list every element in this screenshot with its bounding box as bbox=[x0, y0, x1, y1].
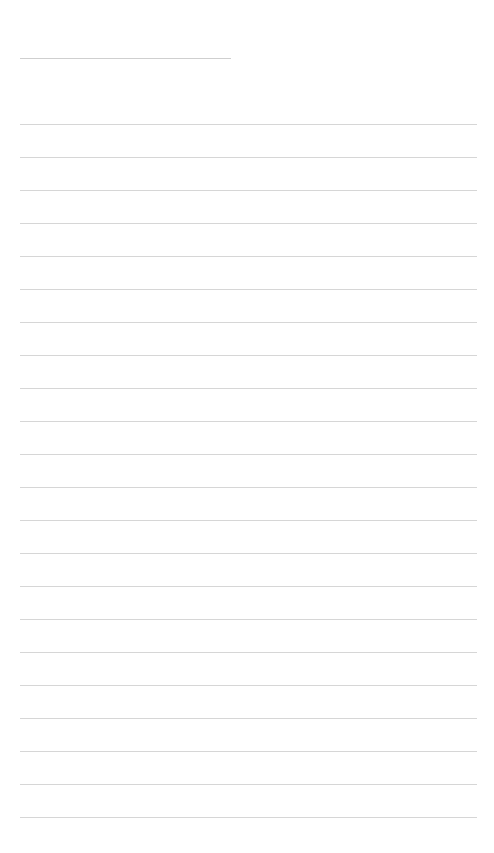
ruled-line bbox=[20, 421, 477, 422]
ruled-line bbox=[20, 586, 477, 587]
ruled-line bbox=[20, 718, 477, 719]
ruled-line bbox=[20, 685, 477, 686]
ruled-line bbox=[20, 520, 477, 521]
ruled-line bbox=[20, 256, 477, 257]
ruled-line bbox=[20, 355, 477, 356]
lined-paper-page bbox=[0, 0, 494, 853]
ruled-line bbox=[20, 388, 477, 389]
ruled-line bbox=[20, 322, 477, 323]
ruled-line bbox=[20, 487, 477, 488]
ruled-line bbox=[20, 784, 477, 785]
ruled-line bbox=[20, 223, 477, 224]
ruled-line bbox=[20, 553, 477, 554]
ruled-line bbox=[20, 454, 477, 455]
ruled-line bbox=[20, 190, 477, 191]
title-line bbox=[20, 58, 231, 59]
ruled-line bbox=[20, 817, 477, 818]
ruled-line bbox=[20, 289, 477, 290]
ruled-line bbox=[20, 652, 477, 653]
ruled-line bbox=[20, 751, 477, 752]
ruled-line bbox=[20, 619, 477, 620]
ruled-line bbox=[20, 124, 477, 125]
ruled-line bbox=[20, 157, 477, 158]
